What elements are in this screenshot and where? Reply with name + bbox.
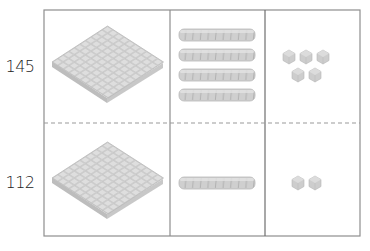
blocks-grid [0,0,370,251]
place-value-diagram: 145 112 [0,0,370,251]
